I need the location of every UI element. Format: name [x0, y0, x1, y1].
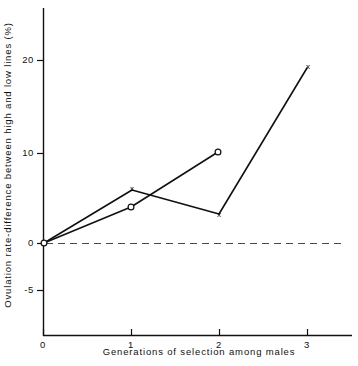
- chart-figure: x x x 20 10 0 -5 0 1 2 3 Ovulation rate-…: [0, 0, 358, 366]
- marker-cross-gen1: x: [130, 185, 134, 193]
- marker-cross-gen3: x: [306, 63, 310, 71]
- y-axis-title: Ovulation rate-difference between high a…: [0, 0, 16, 330]
- series-line-cross: [44, 68, 307, 243]
- marker-cross-gen2: x: [217, 211, 221, 219]
- series-line-circle: [44, 152, 218, 243]
- marker-circle-gen1: [128, 204, 134, 210]
- plot-area: [0, 0, 358, 366]
- marker-circle-gen0: [41, 240, 47, 246]
- x-axis-title: Generations of selection among males: [0, 347, 358, 357]
- x-axis-title-text: Generations of selection among males: [63, 347, 296, 357]
- y-axis-title-text: Ovulation rate-difference between high a…: [3, 22, 13, 308]
- marker-circle-gen2: [215, 149, 221, 155]
